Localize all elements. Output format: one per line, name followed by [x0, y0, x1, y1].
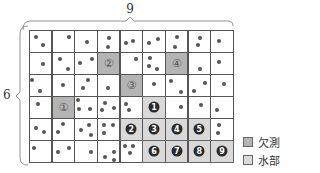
water-cell: 4	[165, 118, 188, 141]
grid-cell	[29, 30, 52, 53]
grid-cell	[52, 30, 75, 53]
grid-cell	[97, 30, 120, 53]
water-cell-number: 2	[126, 124, 137, 135]
grid-cell	[52, 52, 75, 75]
grid-cell	[142, 30, 165, 53]
grid-cell	[29, 140, 52, 163]
water-cell: 8	[188, 140, 211, 163]
water-cell: 9	[210, 140, 233, 163]
water-cell-number: 6	[149, 146, 160, 157]
grid-cell	[120, 96, 143, 119]
water-cell-number: 8	[194, 146, 205, 157]
sample-point	[169, 79, 173, 83]
water-swatch	[243, 155, 253, 165]
grid-cell	[29, 96, 52, 119]
missing-cell: ②	[97, 52, 120, 75]
water-cell-number: 3	[149, 124, 160, 135]
sample-point	[78, 61, 82, 65]
sample-point	[198, 36, 202, 40]
sample-point	[155, 67, 159, 71]
missing-cell-number: ③	[126, 80, 137, 91]
sample-point	[152, 82, 156, 86]
sample-point	[203, 81, 207, 85]
grid-cell	[188, 96, 211, 119]
sample-point	[89, 133, 93, 137]
grid-cell	[188, 30, 211, 53]
sample-point	[103, 155, 107, 159]
sample-point	[61, 83, 65, 87]
grid-cell	[120, 52, 143, 75]
grid-cell	[97, 140, 120, 163]
sample-point	[85, 40, 89, 44]
sample-point	[66, 67, 70, 71]
sample-point	[112, 158, 116, 162]
grid-cell	[165, 30, 188, 53]
water-cell: 2	[120, 118, 143, 141]
grid-cell	[188, 74, 211, 97]
missing-cell-number: ①	[58, 102, 69, 113]
sample-point	[41, 62, 45, 66]
grid-cell	[142, 52, 165, 75]
grid-cell	[52, 140, 75, 163]
water-cell: 6	[142, 140, 165, 163]
water-cell-number: 1	[149, 102, 160, 113]
sample-point	[100, 108, 104, 112]
missing-cell: ④	[165, 52, 188, 75]
sample-point	[179, 105, 183, 109]
grid-cell	[210, 52, 233, 75]
sample-point	[34, 35, 38, 39]
sample-point	[61, 122, 65, 126]
grid-cell	[210, 96, 233, 119]
grid-cell	[210, 30, 233, 53]
grid-cell	[188, 52, 211, 75]
sample-point	[32, 146, 36, 150]
grid-cell	[29, 118, 52, 141]
legend-water-label: 水部	[258, 152, 280, 168]
sample-point	[222, 82, 226, 86]
sample-point	[87, 123, 91, 127]
sample-point	[103, 101, 107, 105]
grid-cell	[165, 74, 188, 97]
sample-point	[134, 57, 138, 61]
water-cell-number: 7	[171, 146, 182, 157]
sample-point	[67, 146, 71, 150]
sample-point	[102, 123, 106, 127]
missing-swatch	[243, 137, 253, 147]
sample-point	[67, 35, 71, 39]
missing-cell: ③	[120, 74, 143, 97]
sample-point	[148, 56, 152, 60]
legend-missing-label: 欠測	[258, 134, 280, 150]
grid-cell	[74, 118, 97, 141]
water-cell: 7	[165, 140, 188, 163]
water-cell: 1	[142, 96, 165, 119]
water-cell-number: 4	[171, 124, 182, 135]
grid-cell	[97, 118, 120, 141]
missing-cell-number: ④	[171, 58, 182, 69]
water-cell: 3	[142, 118, 165, 141]
sample-point	[36, 102, 40, 106]
water-cell: 5	[188, 118, 211, 141]
water-cell-number: 5	[194, 124, 205, 135]
missing-cell-number: ②	[103, 58, 114, 69]
sample-point	[179, 90, 183, 94]
sample-point	[111, 123, 115, 127]
sample-point	[156, 37, 160, 41]
grid-cell	[74, 140, 97, 163]
sample-point	[30, 78, 34, 82]
legend-water: 水部	[243, 152, 280, 168]
sample-point	[198, 67, 202, 71]
sample-point	[86, 78, 90, 82]
water-cell-number: 9	[217, 146, 228, 157]
sample-point	[58, 57, 62, 61]
sample-point	[131, 144, 135, 148]
grid-cell	[165, 96, 188, 119]
sample-point	[34, 126, 38, 130]
sample-point	[173, 45, 177, 49]
grid-cell	[210, 118, 233, 141]
sample-point	[106, 45, 110, 49]
sample-point	[38, 89, 42, 93]
grid: ②④③①123456789	[29, 30, 233, 162]
missing-cell: ①	[52, 96, 75, 119]
sample-point	[123, 144, 127, 148]
legend-missing: 欠測	[243, 134, 280, 150]
